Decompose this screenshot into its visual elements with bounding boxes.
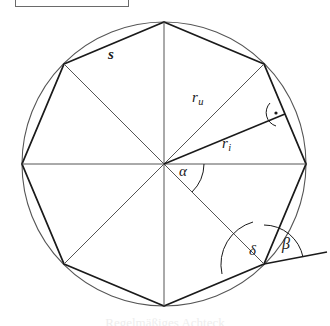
side-symbol: s [108,46,114,62]
circumradius-symbol: r [192,89,198,105]
radius-to-vertex-upper-left [64,64,164,164]
exterior-angle-label: β [282,236,290,252]
circumradius-label: ru [192,90,204,107]
central-angle-symbol: α [179,163,187,179]
octagon-diagram [0,0,330,326]
interior-angle-label: δ [249,243,256,258]
radius-to-vertex-lower-left [64,164,164,264]
figure-caption: Regelmäßiges Achteck [0,316,330,326]
inradius-subscript: i [228,142,231,153]
inradius-symbol: r [222,135,228,151]
figure-canvas: s ru ri α δ β Regelmäßiges Achteck [0,0,330,326]
side-label: s [108,47,114,62]
circumradius-subscript: u [198,96,204,107]
right-angle-marker [266,103,277,126]
interior-angle-symbol: δ [249,242,256,258]
central-angle-arc [192,164,204,192]
central-angle-label: α [179,164,187,179]
exterior-angle-symbol: β [282,235,290,252]
radius-to-vertex-upper-right [164,64,264,164]
inradius-label: ri [222,136,231,153]
